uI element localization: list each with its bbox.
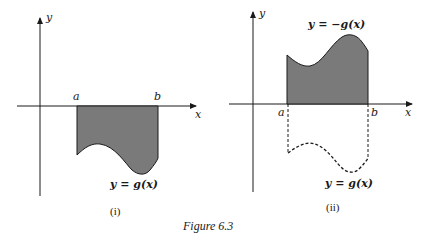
x-axis-label: x <box>195 108 202 121</box>
upper-curve-label: y = −g(x) <box>307 18 365 31</box>
panel-label: (i) <box>110 205 121 218</box>
lower-curve-label: y = g(x) <box>324 177 373 190</box>
panel-label: (ii) <box>326 201 340 214</box>
x-axis-label: x <box>405 106 412 119</box>
y-axis-label: y <box>258 7 266 20</box>
y-axis-label: y <box>45 11 53 24</box>
figure-caption: Figure 6.3 <box>182 219 233 233</box>
dashed-curve-g <box>288 143 368 172</box>
point-b-label: b <box>371 106 378 119</box>
panel-i: y x a b y = g(x) (i) <box>17 11 202 218</box>
curve-label: y = g(x) <box>109 178 158 191</box>
point-a-label: a <box>278 106 285 119</box>
point-b-label: b <box>154 90 161 103</box>
figure-canvas: y x a b y = g(x) (i) y x a b y = −g(x) y… <box>0 0 426 234</box>
panel-ii: y x a b y = −g(x) y = g(x) (ii) <box>229 7 412 214</box>
figure-6-3: y x a b y = g(x) (i) y x a b y = −g(x) y… <box>0 0 426 234</box>
shaded-region <box>77 106 158 174</box>
shaded-region <box>287 35 368 104</box>
point-a-label: a <box>73 90 80 103</box>
